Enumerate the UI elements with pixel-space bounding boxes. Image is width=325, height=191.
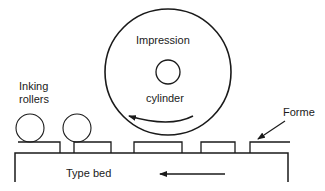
inking-roller-1 bbox=[16, 114, 44, 142]
forme-block-2 bbox=[74, 142, 111, 153]
forme-block-4 bbox=[201, 142, 235, 153]
cylinder-label: cylinder bbox=[146, 92, 184, 104]
forme-pointer-arrow-icon bbox=[258, 121, 285, 139]
type-bed bbox=[15, 153, 288, 182]
inking-label-line2: rollers bbox=[19, 93, 49, 105]
rotation-arrow-icon bbox=[129, 116, 193, 122]
forme-block-3 bbox=[134, 142, 182, 153]
cylinder-axle bbox=[156, 60, 180, 84]
type-bed-label: Type bed bbox=[66, 167, 111, 179]
forme-blocks bbox=[18, 142, 290, 153]
forme-block-1 bbox=[18, 142, 60, 153]
impression-cylinder bbox=[105, 9, 231, 135]
impression-label: Impression bbox=[136, 34, 190, 46]
inking-roller-2 bbox=[63, 114, 91, 142]
forme-block-5 bbox=[250, 142, 290, 153]
inking-label-line1: Inking bbox=[19, 80, 48, 92]
forme-label: Forme bbox=[283, 106, 315, 118]
inking-rollers bbox=[16, 114, 91, 142]
